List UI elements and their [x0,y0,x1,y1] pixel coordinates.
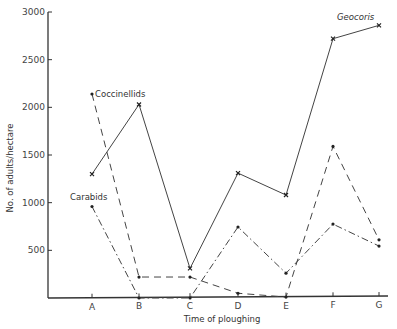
data-point [236,292,239,295]
series-line [92,206,379,298]
y-tick-label: 3000 [22,7,45,17]
y-tick-label: 2500 [22,55,45,65]
series-carabids [90,205,380,300]
line-chart: 50010001500200025003000ABCDEFG GeocorisC… [0,0,397,329]
x-tick-label: D [235,301,242,311]
data-point [90,205,93,208]
y-tick-label: 1000 [22,198,45,208]
x-tick-label: B [136,301,142,311]
series-label-geocoris: Geocoris [337,12,375,22]
series-label-carabids: Carabids [70,192,108,202]
data-point [188,296,191,299]
series-line [92,94,379,297]
series-layer: GeocorisCoccinellidsCarabids [70,12,381,300]
x-tick-label: G [376,300,383,310]
data-point [331,223,334,226]
data-point [284,295,287,298]
data-point [137,275,140,278]
data-point [137,296,140,299]
data-point [236,171,240,175]
x-tick-label: E [283,301,289,311]
data-point [90,172,94,176]
y-tick-label: 1500 [22,150,45,160]
axes: 50010001500200025003000ABCDEFG [22,7,388,312]
x-tick-label: A [89,302,96,312]
series-label-coccinellids: Coccinellids [95,89,146,99]
x-axis-title: Time of ploughing [183,314,261,324]
x-tick-label: F [330,300,335,310]
data-point [377,238,380,241]
data-point [377,244,380,247]
y-tick-label: 500 [28,245,45,255]
x-axis-line [48,296,388,298]
data-point [90,92,93,95]
data-point [188,275,191,278]
data-point [284,272,287,275]
x-tick-label: C [187,301,193,311]
series-geocoris [90,23,381,270]
y-tick-label: 2000 [22,102,45,112]
data-point [236,225,239,228]
data-point [331,145,334,148]
series-coccinellids [90,92,380,298]
y-axis-title: No. of adults/hectare [5,123,15,212]
series-line [92,25,379,268]
